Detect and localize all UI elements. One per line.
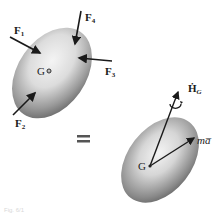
- free-body-diagram: F1 F4 F3 F2 G: [0, 11, 116, 133]
- angular-momentum-rate-label: ḢG: [188, 82, 202, 96]
- force-label-f3: F3: [105, 65, 116, 79]
- linear-momentum-rate-label: ma̅: [197, 134, 212, 146]
- moment-curl-icon: [170, 104, 181, 108]
- center-of-mass-dot: [48, 70, 49, 71]
- kinetic-diagram: ḢG ma̅ G: [105, 82, 215, 217]
- center-of-mass-label: G: [37, 65, 45, 77]
- figure-caption: Fig. 6/1: [4, 207, 24, 213]
- moment-curl-arrowhead: [180, 101, 183, 104]
- force-label-f2: F2: [15, 117, 26, 131]
- center-of-mass-dot-kinetic: [148, 164, 151, 167]
- force-label-f1: F1: [14, 24, 25, 38]
- force-label-f4: F4: [85, 11, 96, 25]
- center-of-mass-label-kinetic: G: [138, 160, 146, 172]
- equals-sign: [77, 135, 90, 143]
- diagram-canvas: F1 F4 F3 F2 G ḢG ma̅ G: [0, 0, 222, 217]
